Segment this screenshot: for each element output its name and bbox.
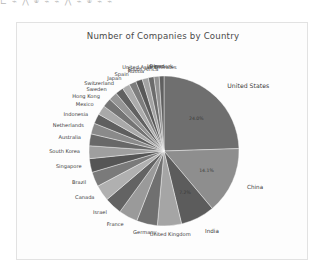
pie-svg xyxy=(17,23,309,261)
pie-chart: 24.0%14.1%7.2% United StatesChinaIndiaUn… xyxy=(17,23,309,261)
pie-percent-label: 7.2% xyxy=(179,190,191,195)
pie-wedge-group xyxy=(89,76,239,226)
pie-slice-label: Indonesia xyxy=(64,112,89,118)
pie-slice-label: Hong Kong xyxy=(72,94,100,100)
pie-slice-label: United States xyxy=(227,83,269,89)
pie-slice-label: China xyxy=(247,185,263,191)
pie-slice-label: Canada xyxy=(75,195,94,201)
pie-slice-label: Denmark xyxy=(150,64,173,70)
pie-slice-label: Singapore xyxy=(56,164,82,170)
pie-slice-label: Sweden xyxy=(87,87,107,93)
screenshot-root: ⊏ ⌁ ⋀ ⌾ ⌁ ⌁ ⋀ ⌁ ⌾ ⌁ ⌁ Number of Companie… xyxy=(0,0,327,275)
chart-figure-panel: Number of Companies by Country 24.0%14.1… xyxy=(16,22,308,260)
pie-slice-label: Germany xyxy=(133,230,156,236)
pie-slice-label: France xyxy=(107,222,124,228)
pie-percent-label: 24.0% xyxy=(189,115,204,120)
pie-slice-label: Australia xyxy=(58,135,81,141)
clipped-top-text-label: ⊏ ⌁ ⋀ ⌾ ⌁ ⌁ ⋀ ⌁ ⌾ ⌁ ⌁ xyxy=(0,0,114,6)
pie-slice-label: South Korea xyxy=(49,149,80,155)
pie-slice-label: Mexico xyxy=(76,102,94,108)
pie-slice-label: Brazil xyxy=(72,180,86,186)
pie-slice-label: Netherlands xyxy=(53,123,84,129)
clipped-top-text: ⊏ ⌁ ⋀ ⌾ ⌁ ⌁ ⋀ ⌁ ⌾ ⌁ ⌁ xyxy=(0,0,327,9)
pie-slice-label: Spain xyxy=(115,72,129,78)
pie-slice-label: Switzerland xyxy=(84,81,114,87)
pie-slice-label: Israel xyxy=(93,210,107,216)
pie-percent-label: 14.1% xyxy=(199,167,214,172)
pie-slice-label: India xyxy=(205,229,219,235)
